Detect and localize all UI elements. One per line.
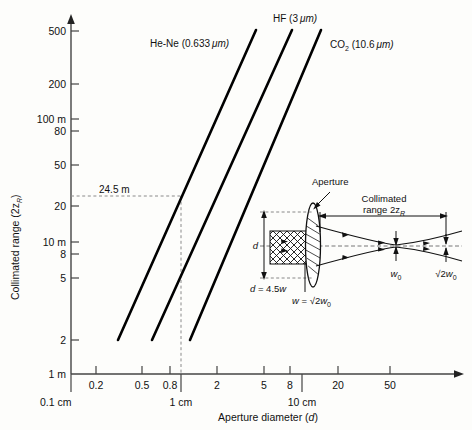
- y-tick-500: 500: [48, 25, 66, 37]
- x-tick-5: 5: [261, 379, 267, 391]
- x-decade-1cm: 1 cm: [170, 396, 193, 408]
- inset-label-collimated-line1: Collimated: [362, 193, 407, 204]
- series-label-he-ne: He-Ne (0.633μm): [150, 38, 229, 49]
- x-tick-20: 20: [332, 379, 344, 391]
- chart-canvas: 500 200 100 m 80 50 20 10 m 8 5 2 1 m 0.…: [0, 0, 472, 430]
- y-tick-10m: 10 m: [43, 236, 67, 248]
- x-axis-title: Aperture diameter (d): [218, 411, 318, 423]
- y-tick-100m: 100 m: [37, 113, 66, 125]
- x-decade-0-1cm: 0.1 cm: [40, 396, 72, 408]
- inset-label-d-relation: d = 4.5w: [250, 283, 287, 294]
- y-tick-20: 20: [54, 200, 66, 212]
- x-tick-2: 2: [214, 379, 220, 391]
- y-tick-1m: 1 m: [48, 368, 66, 380]
- x-tick-8: 8: [287, 379, 293, 391]
- x-axis-title-suffix: ): [314, 411, 318, 423]
- x-tick-0-8: 0.8: [163, 379, 178, 391]
- y-tick-50: 50: [54, 159, 66, 171]
- svg-text:Aperture diameter (d): Aperture diameter (d): [218, 411, 318, 423]
- annotation-24-5m: 24.5 m: [99, 184, 130, 195]
- svg-text:Collimated range (2zR): Collimated range (2zR): [9, 195, 23, 300]
- chart-figure: 500 200 100 m 80 50 20 10 m 8 5 2 1 m 0.…: [0, 0, 472, 430]
- x-tick-50: 50: [384, 379, 396, 391]
- x-tick-0-5: 0.5: [135, 379, 150, 391]
- y-tick-80: 80: [54, 125, 66, 137]
- y-axis-title: Collimated range (2zR): [9, 195, 23, 300]
- series-label-hf: HF (3μm): [273, 13, 317, 24]
- inset-label-aperture: Aperture: [312, 176, 348, 187]
- series-label-co2: CO2 (10.6μm): [330, 39, 394, 52]
- y-axis-title-suffix: ): [9, 195, 21, 199]
- aperture-lens: [306, 203, 321, 287]
- inset-label-collimated-line2: range 2zR: [363, 204, 405, 217]
- inset-label-w-relation: w = √2w0: [292, 295, 331, 308]
- y-axis-title-prefix: Collimated range (2z: [9, 203, 21, 300]
- x-axis-title-prefix: Aperture diameter (: [218, 411, 309, 423]
- source-block: [270, 231, 310, 264]
- y-tick-8: 8: [60, 248, 66, 260]
- y-tick-200: 200: [48, 78, 66, 90]
- inset-label-d: d: [253, 240, 259, 251]
- y-tick-2: 2: [60, 334, 66, 346]
- y-tick-5: 5: [60, 272, 66, 284]
- x-tick-0-2: 0.2: [89, 379, 104, 391]
- x-decade-10cm: 10 cm: [288, 396, 317, 408]
